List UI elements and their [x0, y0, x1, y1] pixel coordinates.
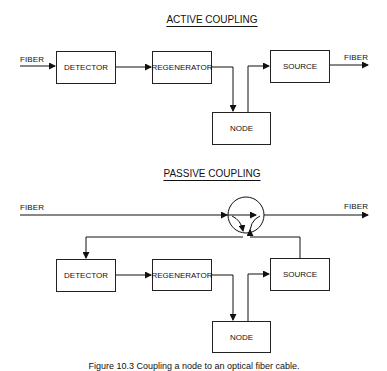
active-source-block: SOURCE — [270, 50, 330, 83]
active-coupling-title: ACTIVE COUPLING — [166, 14, 257, 25]
passive-source-block: SOURCE — [270, 258, 330, 291]
active-fiber-in-label: FIBER — [20, 55, 44, 64]
active-node-block: NODE — [212, 112, 271, 145]
active-fiber-out-label: FIBER — [344, 53, 368, 62]
passive-node-block: NODE — [212, 321, 271, 353]
passive-detector-block: DETECTOR — [56, 259, 116, 292]
figure-caption: Figure 10.3 Coupling a node to an optica… — [88, 361, 299, 371]
passive-fiber-in-label: FIBER — [20, 203, 44, 212]
active-detector-block: DETECTOR — [56, 51, 116, 84]
passive-regenerator-block: REGENERATOR — [152, 259, 212, 291]
passive-fiber-out-label: FIBER — [344, 202, 368, 211]
passive-coupling-title: PASSIVE COUPLING — [163, 168, 260, 179]
active-regenerator-block: REGENERATOR — [152, 51, 212, 84]
